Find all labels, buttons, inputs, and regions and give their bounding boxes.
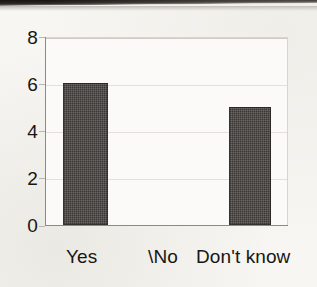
bar-chart-screenshot: 8 6 4 2 0 Yes: [0, 0, 317, 287]
y-tick-label-0: 0: [4, 216, 38, 235]
bar-yes: [63, 83, 108, 225]
bar-dont-know: [229, 107, 271, 225]
scan-artifact-top-fade: [0, 6, 317, 11]
x-axis-spine: [45, 225, 288, 226]
x-tick-label-dont-know: Don't know: [196, 246, 290, 268]
y-tick-label-6: 6: [4, 75, 38, 94]
gridline-8: [46, 38, 287, 39]
y-tick-mark-0: [39, 226, 45, 227]
plot-area: [45, 37, 288, 226]
y-tick-label-4: 4: [4, 122, 38, 141]
y-tick-label-8: 8: [4, 28, 38, 47]
y-tick-label-2: 2: [4, 169, 38, 188]
x-axis: Yes \No Don't know: [0, 246, 317, 276]
x-tick-label-no: \No: [148, 246, 178, 268]
x-tick-label-yes: Yes: [66, 246, 97, 268]
y-axis: 8 6 4 2 0: [0, 0, 38, 287]
